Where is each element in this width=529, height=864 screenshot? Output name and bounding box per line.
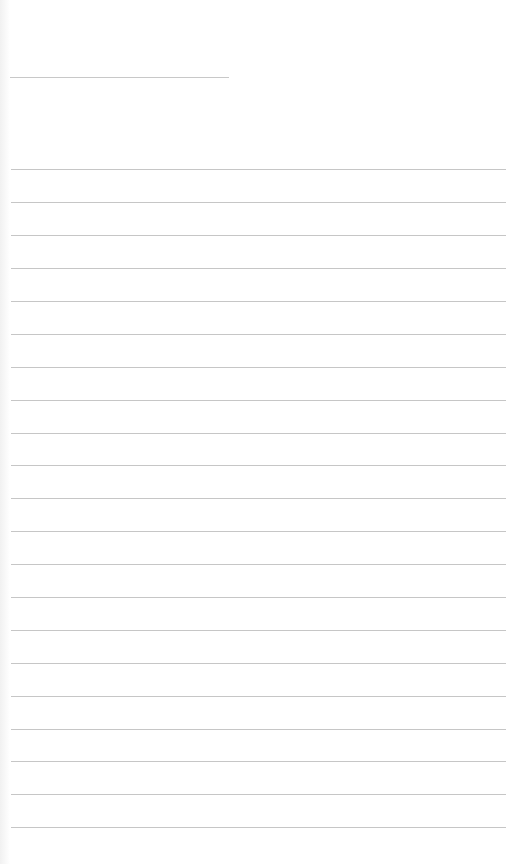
ruled-line <box>11 367 506 368</box>
ruled-line <box>11 433 506 434</box>
ruled-line <box>11 761 506 762</box>
ruled-line <box>11 169 506 170</box>
ruled-line <box>11 400 506 401</box>
ruled-line <box>11 564 506 565</box>
page-edge-shadow <box>0 0 10 864</box>
ruled-line <box>11 334 506 335</box>
ruled-line <box>11 498 506 499</box>
ruled-line <box>11 630 506 631</box>
lined-paper-page <box>0 0 529 864</box>
ruled-line <box>11 729 506 730</box>
header-rule-line <box>10 77 229 78</box>
ruled-line <box>11 465 506 466</box>
ruled-line <box>11 301 506 302</box>
ruled-line <box>11 827 506 828</box>
ruled-line <box>11 235 506 236</box>
ruled-line <box>11 268 506 269</box>
ruled-line <box>11 202 506 203</box>
ruled-line <box>11 794 506 795</box>
ruled-line <box>11 597 506 598</box>
ruled-line <box>11 663 506 664</box>
ruled-line <box>11 696 506 697</box>
ruled-line <box>11 531 506 532</box>
